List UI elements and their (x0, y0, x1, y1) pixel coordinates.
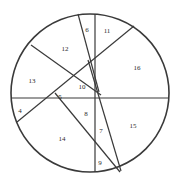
region-6-label: 6 (85, 27, 89, 34)
region-8-label: 8 (84, 111, 88, 118)
region-13-label: 13 (29, 78, 36, 85)
region-14-label: 14 (59, 136, 66, 143)
region-11-label: 11 (104, 28, 111, 35)
region-12-label: 12 (62, 46, 69, 53)
region-10-label: 10 (79, 84, 86, 91)
region-9-label: 9 (98, 160, 102, 167)
region-4-label: 4 (18, 108, 22, 115)
circle-partition-figure: 61112161310548715149 (0, 0, 178, 186)
region-15-label: 15 (130, 123, 137, 130)
region-16-label: 16 (134, 65, 141, 72)
region-5-label: 5 (58, 94, 62, 101)
circle-outline (11, 14, 169, 172)
region-7-label: 7 (99, 128, 103, 135)
diagram-geometry (11, 14, 169, 172)
